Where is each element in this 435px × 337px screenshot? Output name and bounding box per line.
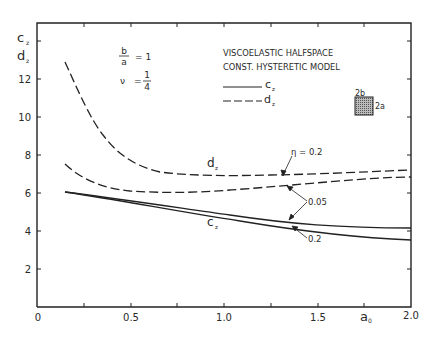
y-tick-label: 2 <box>25 264 31 275</box>
svg-text:z: z <box>272 101 275 107</box>
svg-text:η = 0.2: η = 0.2 <box>291 147 322 157</box>
svg-text:d: d <box>17 48 25 63</box>
svg-text:CONST. HYSTERETIC MODEL: CONST. HYSTERETIC MODEL <box>223 62 340 72</box>
svg-text:b: b <box>121 46 127 56</box>
svg-text:2a: 2a <box>375 102 385 111</box>
y-tick-label: 4 <box>25 226 31 237</box>
svg-text:z: z <box>215 165 218 171</box>
x-tick-label: 0.5 <box>123 312 139 323</box>
y-tick-label: 8 <box>25 150 31 161</box>
svg-text:c: c <box>265 78 271 91</box>
dz-eta-0.2-curve <box>65 62 411 176</box>
svg-text:z: z <box>26 57 29 64</box>
svg-text:= 1: = 1 <box>135 52 151 62</box>
y-ticks <box>37 41 411 269</box>
curve-annotations: d z c z η = 0.2 0.05 0.2 <box>207 147 327 244</box>
y-axis-label: c z d z <box>17 30 29 64</box>
svg-text:c: c <box>207 215 214 229</box>
svg-text:z: z <box>26 39 29 46</box>
foundation-inset: 2b 2a <box>355 89 385 115</box>
x-tick-label: 1.0 <box>216 312 232 323</box>
chart: 2 4 6 8 10 12 0 0.5 1.0 1.5 2.0 c z d z … <box>0 0 435 337</box>
svg-text:VISCOELASTIC HALFSPACE: VISCOELASTIC HALFSPACE <box>223 48 333 58</box>
svg-text:ν: ν <box>120 76 125 86</box>
x-tick-label: 2.0 <box>403 310 419 321</box>
y-tick-label: 6 <box>25 188 31 199</box>
svg-text:c: c <box>17 30 24 45</box>
parameter-box: b a = 1 ν = 1 4 <box>119 46 151 92</box>
x-tick-label: 0 <box>35 312 41 323</box>
svg-text:a: a <box>121 57 127 67</box>
svg-text:0.05: 0.05 <box>308 197 327 207</box>
svg-text:z: z <box>215 224 218 230</box>
svg-text:z: z <box>272 86 275 92</box>
svg-text:1: 1 <box>144 70 150 80</box>
dz-eta-0.05-curve <box>65 164 411 192</box>
legend: c z d z <box>223 78 275 107</box>
cz-eta-0.05-curve <box>65 192 411 228</box>
x-tick-label: 1.5 <box>310 312 326 323</box>
svg-text:0: 0 <box>368 317 372 324</box>
y-tick-label: 12 <box>18 74 31 85</box>
svg-text:a: a <box>360 309 368 324</box>
svg-text:0.2: 0.2 <box>308 234 322 244</box>
svg-text:4: 4 <box>144 82 150 92</box>
svg-text:=: = <box>134 76 142 86</box>
svg-text:d: d <box>207 156 215 170</box>
svg-text:d: d <box>264 93 271 106</box>
y-tick-label: 10 <box>18 112 31 123</box>
x-axis-label: a 0 <box>360 309 372 324</box>
chart-title: VISCOELASTIC HALFSPACE CONST. HYSTERETIC… <box>223 48 340 72</box>
